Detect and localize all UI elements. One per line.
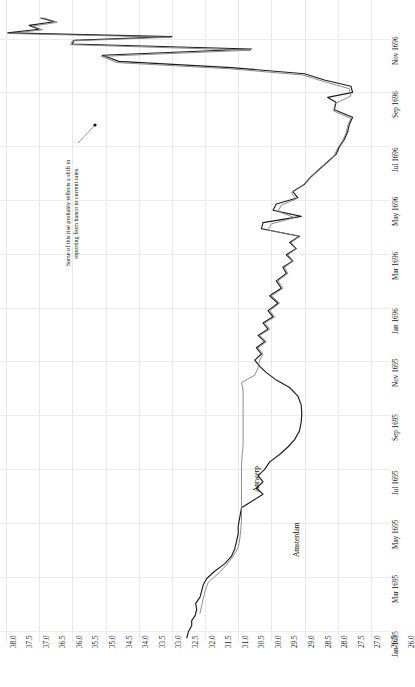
value-tick-label: 37.5	[26, 608, 38, 648]
plot-area	[0, 0, 390, 642]
value-tick-label: 33.0	[175, 608, 187, 648]
value-tick-label: 34.5	[126, 608, 138, 648]
value-tick-label: 34.0	[142, 608, 154, 648]
annotation-line: reporting from banco to current rates.	[72, 138, 80, 288]
value-tick-label: 38.0	[10, 608, 22, 648]
annotation-banco-shift: Some of this rise probably reflects a sh…	[64, 138, 81, 288]
value-tick-label: 28.0	[341, 608, 353, 648]
value-tick-label: 31.5	[225, 608, 237, 648]
value-tick-label: 37.0	[43, 608, 55, 648]
value-tick-label: 35.0	[109, 608, 121, 648]
exchange-rate-chart: 38.037.537.036.536.035.535.034.534.033.5…	[0, 0, 415, 687]
value-tick-label: 32.0	[209, 608, 221, 648]
date-tick-label: May 1696	[392, 166, 404, 226]
date-tick-label: Sep 1695	[392, 381, 404, 441]
value-tick-label: 27.5	[358, 608, 370, 648]
value-tick-label: 30.5	[258, 608, 270, 648]
value-tick-label: 32.5	[192, 608, 204, 648]
annotation-leader-layer	[0, 0, 390, 642]
date-tick-label: Jul 1695	[392, 435, 404, 495]
value-tick-label: 31.0	[242, 608, 254, 648]
value-tick-label: 29.0	[308, 608, 320, 648]
series-label-antwerp: Antwerp	[252, 466, 261, 492]
series-label-amsterdam: Amsterdam	[292, 523, 301, 557]
value-tick-label: 27.0	[374, 608, 386, 648]
annotation-target-dot	[93, 123, 96, 126]
value-tick-label: 36.5	[59, 608, 71, 648]
date-tick-label: Jan 1696	[392, 274, 404, 334]
value-tick-label: 26.0	[408, 608, 415, 648]
value-tick-label: 30.0	[275, 608, 287, 648]
date-tick-label: Jan 1695	[392, 597, 404, 657]
date-tick-label: May 1695	[392, 489, 404, 549]
value-tick-label: 28.5	[325, 608, 337, 648]
date-tick-label: Mar 1696	[392, 220, 404, 280]
value-tick-label: 35.5	[92, 608, 104, 648]
value-tick-label: 29.5	[291, 608, 303, 648]
value-tick-label: 36.0	[76, 608, 88, 648]
date-tick-label: Mar 1695	[392, 543, 404, 603]
date-tick-label: Sep 1696	[392, 58, 404, 118]
annotation-line: Some of this rise probably reflects a sh…	[64, 138, 72, 288]
date-tick-label: Jul 1696	[392, 112, 404, 172]
date-tick-label: Nov 1695	[392, 327, 404, 387]
value-tick-label: 33.5	[159, 608, 171, 648]
date-tick-label: Nov 1696	[392, 5, 404, 65]
